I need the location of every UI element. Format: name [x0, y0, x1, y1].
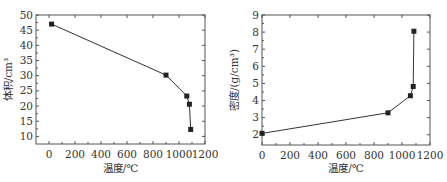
data-point [411, 29, 416, 34]
x-tick-label: 1000 [166, 148, 193, 160]
x-axis-title: 温度/℃ [103, 162, 139, 174]
x-tick-label: 1200 [192, 148, 219, 160]
data-point [164, 73, 169, 78]
data-point [187, 102, 192, 107]
y-tick-label: 4 [252, 94, 259, 106]
x-tick-label: 200 [280, 149, 300, 161]
density-chart: 02004006008001000120023456789温度/℃密度/(g/c… [228, 9, 443, 175]
x-tick-label: 800 [364, 149, 384, 161]
x-tick-label: 600 [117, 148, 137, 160]
data-point [408, 93, 413, 98]
x-tick-label: 400 [308, 149, 328, 161]
y-tick-label: 8 [252, 26, 259, 38]
x-tick-label: 600 [336, 149, 356, 161]
x-axis-title: 温度/℃ [328, 162, 364, 174]
x-tick-label: 200 [65, 148, 85, 160]
y-tick-label: 45 [20, 24, 33, 36]
y-axis-title: 体积/cm³ [2, 58, 14, 102]
y-tick-label: 10 [20, 130, 33, 142]
data-point [386, 110, 391, 115]
data-point [260, 131, 265, 136]
x-tick-label: 400 [91, 148, 111, 160]
x-tick-label: 800 [143, 148, 163, 160]
y-tick-label: 7 [252, 43, 259, 55]
data-point [411, 84, 416, 89]
y-tick-label: 5 [252, 77, 259, 89]
plot-frame [262, 15, 430, 145]
y-tick-label: 3 [252, 111, 259, 123]
y-tick-label: 50 [20, 9, 33, 21]
y-tick-label: 20 [20, 100, 33, 112]
series-line [52, 24, 191, 129]
y-tick-label: 30 [20, 69, 33, 81]
x-tick-label: 0 [46, 148, 53, 160]
y-tick-label: 25 [20, 84, 33, 96]
series-line [262, 31, 414, 133]
y-tick-label: 35 [20, 54, 33, 66]
x-tick-label: 1200 [417, 149, 444, 161]
plot-frame [36, 15, 205, 144]
charts-canvas: 020040060080010001200101520253035404550温… [0, 0, 447, 182]
volume-chart: 020040060080010001200101520253035404550温… [2, 9, 218, 175]
x-tick-label: 1000 [389, 149, 416, 161]
y-tick-label: 9 [252, 9, 259, 21]
data-point [188, 127, 193, 132]
y-axis-title: 密度/(g/cm³) [228, 49, 240, 111]
data-point [184, 94, 189, 99]
x-tick-label: 0 [259, 149, 266, 161]
data-point [49, 22, 54, 27]
y-tick-label: 2 [252, 128, 259, 140]
y-tick-label: 40 [20, 39, 33, 51]
y-tick-label: 15 [20, 115, 33, 127]
y-tick-label: 6 [252, 60, 259, 72]
